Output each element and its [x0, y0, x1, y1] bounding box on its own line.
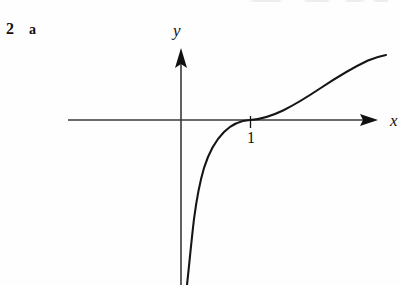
log-curve	[187, 55, 386, 285]
x-axis-label: x	[390, 112, 398, 129]
figure-container: 2a y x 1	[0, 0, 400, 285]
y-axis-label: y	[173, 22, 181, 39]
plot-graphic	[0, 0, 400, 285]
x-tick-label-one: 1	[247, 130, 255, 146]
